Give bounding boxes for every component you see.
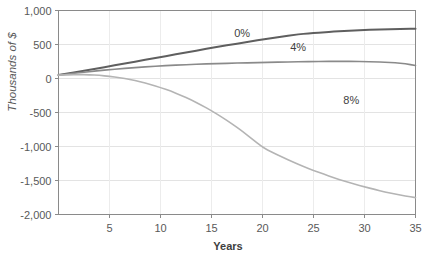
y-tick-label: -500	[29, 107, 51, 119]
y-axis-title: Thousands of $	[6, 32, 18, 112]
x-axis-title: Years	[213, 240, 242, 252]
chart-series-lines	[59, 29, 416, 198]
y-tick-label: 0	[45, 73, 51, 85]
y-tick-label: -1,500	[20, 175, 51, 187]
x-tick-label: 30	[358, 222, 370, 234]
x-tick-label: 25	[307, 222, 319, 234]
x-tick-label: 15	[205, 222, 217, 234]
y-tick-label: -1,000	[20, 141, 51, 153]
series-line-4pct	[59, 61, 416, 75]
x-tick-label: 35	[409, 222, 421, 234]
series-label-8pct: 8%	[343, 94, 359, 106]
y-tick-label: 500	[33, 39, 51, 51]
y-tick-label: -2,000	[20, 209, 51, 221]
series-label-4pct: 4%	[290, 41, 306, 53]
chart-tick-labels: 1,0005000-500-1,000-1,500-2,000510152025…	[20, 5, 421, 234]
series-label-0pct: 0%	[234, 27, 250, 39]
x-tick-label: 20	[256, 222, 268, 234]
y-tick-label: 1,000	[24, 5, 52, 17]
x-tick-label: 5	[106, 222, 112, 234]
chart-gridlines	[59, 11, 416, 215]
investment-projection-chart: 1,0005000-500-1,000-1,500-2,000510152025…	[0, 0, 434, 265]
chart-canvas: 1,0005000-500-1,000-1,500-2,000510152025…	[0, 0, 434, 265]
chart-series-labels: 0%4%8%	[234, 27, 359, 106]
x-tick-label: 10	[154, 222, 166, 234]
series-line-8pct	[59, 75, 416, 198]
